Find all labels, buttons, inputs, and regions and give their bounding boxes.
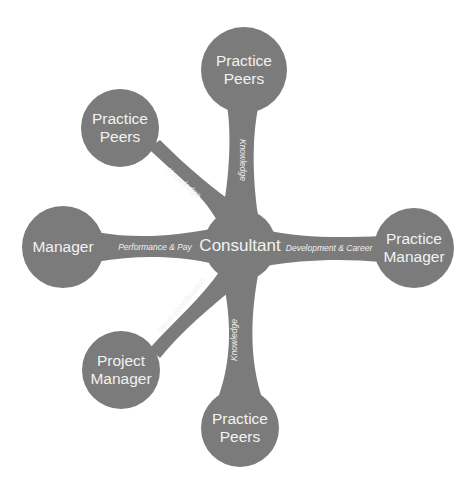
node-bottom-label-line2: Peers	[220, 428, 261, 445]
edge-label-right: Development & Career	[286, 243, 374, 253]
node-right-label-line2: Manager	[383, 248, 444, 265]
node-upper-left-label-line1: Practice	[92, 110, 148, 127]
node-lower-left-label-line1: Project	[97, 352, 146, 369]
connector-upper-left	[148, 140, 238, 222]
node-top-label-line2: Peers	[224, 70, 265, 87]
node-upper-left-label-line2: Peers	[100, 128, 141, 145]
node-left-label: Manager	[32, 238, 93, 255]
edge-label-left: Performance & Pay	[118, 242, 192, 252]
node-lower-left-label-line2: Manager	[90, 370, 151, 387]
node-right-label-line1: Practice	[386, 230, 442, 247]
node-top-label-line1: Practice	[216, 52, 272, 69]
edge-label-top: Knowledge	[238, 139, 248, 181]
consultant-relationship-diagram: Consultant Practice Peers Practice Peers…	[0, 0, 475, 490]
edge-label-bottom: Knowledge	[229, 319, 239, 361]
node-bottom-label-line1: Practice	[212, 410, 268, 427]
center-label: Consultant	[199, 236, 281, 255]
